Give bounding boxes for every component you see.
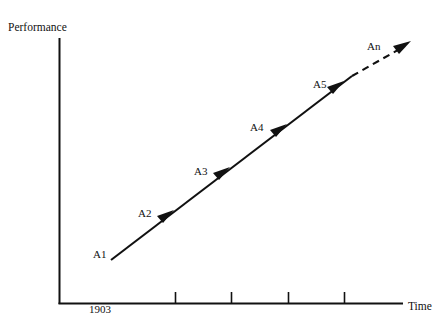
point-label-a2: A2 — [138, 208, 151, 219]
x-axis-title: Time — [408, 301, 432, 313]
marker-arrow-a4 — [270, 124, 287, 137]
point-label-a4: A4 — [250, 122, 263, 133]
point-label-a3: A3 — [194, 166, 207, 177]
y-axis-title: Performance — [8, 22, 67, 34]
marker-arrow-a2 — [157, 210, 174, 223]
x-tick-label-1903: 1903 — [89, 304, 111, 315]
point-label-an: An — [367, 41, 380, 52]
point-label-a5: A5 — [313, 79, 326, 90]
performance-time-chart: Performance Time 1903 A1 A2 A3 A4 A5 An — [0, 0, 442, 329]
marker-arrow-a3 — [213, 167, 230, 180]
point-label-a1: A1 — [93, 249, 106, 260]
trend-line-solid — [111, 76, 352, 260]
